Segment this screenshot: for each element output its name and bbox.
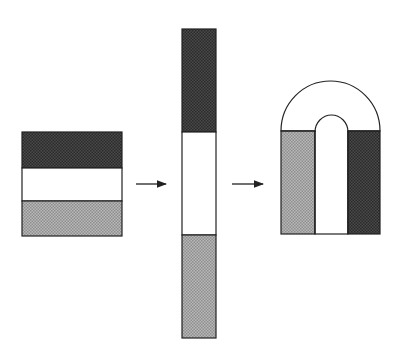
square-figure [22,132,122,236]
strip-light-band [182,235,216,338]
arch-right-dark-column [348,131,380,234]
arch-middle-white-column [315,131,348,234]
diagram-canvas [0,0,400,359]
tall-strip-figure [182,29,216,338]
figure: Three-step dissection: a square of three… [0,0,400,359]
square-light-band [22,201,122,236]
arch-inner-gap-cover [316,129,347,133]
square-white-band [22,168,122,201]
strip-dark-band [182,29,216,132]
square-dark-band [22,132,122,168]
arch-left-light-column [281,131,315,234]
arch-figure [281,81,380,234]
strip-white-band [182,132,216,235]
